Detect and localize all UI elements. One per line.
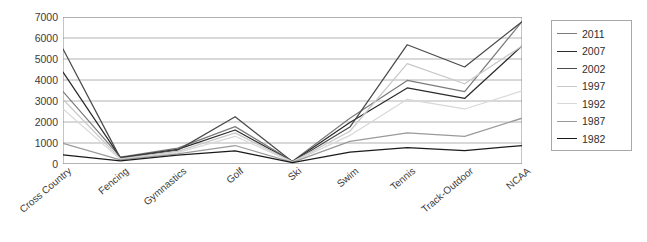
legend-item-label: 2007: [582, 46, 605, 57]
legend-color-swatch: [557, 138, 577, 139]
x-axis: Cross CountryFencingGymnasticsGolfSkiSwi…: [63, 166, 522, 242]
legend-color-swatch: [557, 86, 577, 87]
y-axis-tick-label: 2000: [14, 117, 58, 128]
legend-item[interactable]: 1992: [552, 95, 631, 113]
y-axis-tick-label: 0: [14, 159, 58, 170]
legend-item-label: 2011: [582, 29, 605, 40]
series-line-1992: [63, 91, 522, 162]
legend-color-swatch: [557, 68, 577, 69]
legend-color-swatch: [557, 103, 577, 104]
series-line-1997: [63, 46, 522, 162]
legend-color-swatch: [557, 121, 577, 122]
legend-item-label: 2002: [582, 64, 605, 75]
legend-item[interactable]: 2011: [552, 25, 631, 43]
series-line-2011: [63, 22, 522, 162]
y-axis-tick-label: 1000: [14, 138, 58, 149]
legend-item-label: 1982: [582, 134, 605, 145]
legend-item-label: 1992: [582, 99, 605, 110]
y-axis: 70006000500040003000200010000: [10, 17, 58, 164]
legend-color-swatch: [557, 33, 577, 34]
legend-item[interactable]: 1997: [552, 78, 631, 96]
legend-color-swatch: [557, 51, 577, 52]
series-line-2002: [63, 22, 522, 162]
x-axis-tick-label: NCAA: [526, 148, 554, 174]
legend-item[interactable]: 2007: [552, 43, 631, 61]
legend-item-label: 1987: [582, 116, 605, 127]
legend-item[interactable]: 1987: [552, 113, 631, 131]
y-axis-tick-label: 5000: [14, 54, 58, 65]
series-line-2007: [63, 46, 522, 162]
legend-item[interactable]: 1982: [552, 130, 631, 148]
legend-item[interactable]: 2002: [552, 60, 631, 78]
plot-svg: [63, 17, 522, 164]
legend-item-label: 1997: [582, 81, 605, 92]
plot-area: [63, 17, 522, 164]
legend: 2011200720021997199219871982: [551, 20, 632, 151]
chart-container: 70006000500040003000200010000 Cross Coun…: [0, 0, 647, 242]
y-axis-tick-label: 7000: [14, 12, 58, 23]
y-axis-tick-label: 4000: [14, 75, 58, 86]
y-axis-tick-label: 3000: [14, 96, 58, 107]
y-axis-tick-label: 6000: [14, 33, 58, 44]
